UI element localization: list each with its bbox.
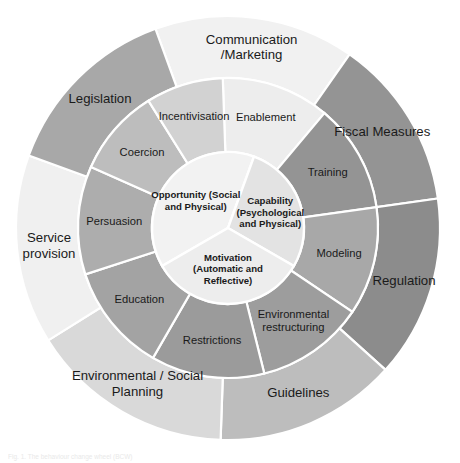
policy-service-provision-label: Serviceprovision (23, 231, 76, 261)
intervention-persuasion-label: Persuasion (86, 215, 142, 227)
intervention-training-label: Training (308, 166, 348, 178)
figure-caption: Fig. 1. The behaviour change wheel (BCW) (8, 452, 428, 461)
intervention-enablement-label: Enablement (236, 111, 297, 123)
behaviour-change-wheel-figure: Communication/MarketingFiscal MeasuresRe… (0, 0, 460, 463)
behaviour-change-wheel-svg: Communication/MarketingFiscal MeasuresRe… (0, 0, 460, 463)
intervention-incentivisation-label: Incentivisation (159, 110, 230, 122)
policy-fiscal-measures-label: Fiscal Measures (334, 125, 430, 140)
intervention-education-label: Education (115, 293, 165, 305)
intervention-environmental-restructuring-label: Environmentalrestructuring (258, 308, 330, 334)
intervention-modeling-label: Modeling (316, 247, 361, 259)
intervention-restrictions-label: Restrictions (183, 334, 242, 346)
intervention-coercion-label: Coercion (120, 146, 165, 158)
policy-guidelines-label: Guidelines (267, 385, 330, 400)
policy-regulation-label: Regulation (372, 273, 435, 288)
policy-legislation-label: Legislation (68, 91, 131, 106)
